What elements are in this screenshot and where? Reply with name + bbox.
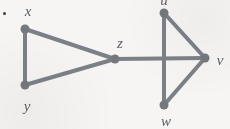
graph-vertex-x — [21, 25, 30, 34]
graph-vertex-z — [111, 55, 120, 64]
graph-edge-z-v — [115, 58, 205, 59]
vertex-label-u: u — [160, 0, 168, 8]
vertex-label-w: w — [161, 114, 171, 129]
graph-edge-y-z — [25, 59, 115, 85]
graph-figure: xyzuvw — [0, 0, 230, 129]
graph-edge-x-z — [25, 29, 115, 59]
graph-edge-u-v — [164, 13, 205, 58]
graph-vertex-w — [160, 101, 169, 110]
graph-edge-w-v — [164, 58, 205, 105]
graph-canvas — [0, 0, 230, 129]
vertex-label-z: z — [117, 36, 123, 51]
vertex-label-v: v — [217, 53, 224, 68]
graph-vertex-v — [201, 54, 210, 63]
vertex-label-x: x — [25, 4, 32, 19]
graph-vertex-u — [160, 9, 169, 18]
graph-vertex-y — [21, 81, 30, 90]
vertex-label-y: y — [24, 99, 31, 114]
